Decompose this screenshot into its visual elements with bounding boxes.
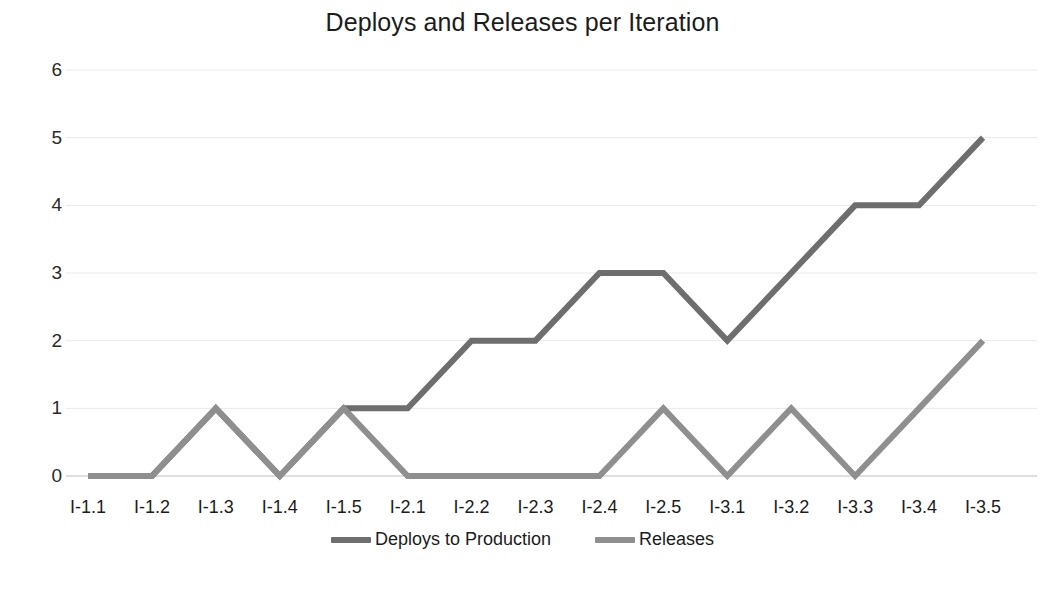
x-tick-label: I-2.3 <box>517 497 553 518</box>
x-tick-label: I-2.4 <box>581 497 617 518</box>
x-tick-label: I-1.5 <box>326 497 362 518</box>
y-tick-label: 6 <box>22 59 62 81</box>
legend-label: Releases <box>639 529 714 550</box>
series-line-deploys-to-production <box>88 138 983 476</box>
x-tick-label: I-1.4 <box>262 497 298 518</box>
legend-swatch-icon <box>595 537 635 543</box>
y-tick-label: 2 <box>22 330 62 352</box>
legend-label: Deploys to Production <box>375 529 551 550</box>
y-tick-label: 1 <box>22 397 62 419</box>
x-tick-label: I-2.5 <box>645 497 681 518</box>
x-tick-label: I-1.3 <box>198 497 234 518</box>
y-tick-label: 4 <box>22 194 62 216</box>
x-tick-label: I-3.1 <box>709 497 745 518</box>
y-tick-label: 5 <box>22 127 62 149</box>
x-tick-label: I-2.1 <box>390 497 426 518</box>
x-tick-label: I-3.2 <box>773 497 809 518</box>
legend-item[interactable]: Releases <box>595 529 714 550</box>
legend-item[interactable]: Deploys to Production <box>331 529 551 550</box>
y-tick-label: 3 <box>22 262 62 284</box>
x-tick-label: I-1.2 <box>134 497 170 518</box>
x-tick-label: I-3.3 <box>837 497 873 518</box>
chart-container: Deploys and Releases per Iteration 01234… <box>0 0 1045 592</box>
x-tick-label: I-3.5 <box>965 497 1001 518</box>
chart-legend: Deploys to ProductionReleases <box>0 529 1045 550</box>
x-tick-label: I-3.4 <box>901 497 937 518</box>
x-tick-label: I-2.2 <box>454 497 490 518</box>
y-tick-label: 0 <box>22 465 62 487</box>
legend-swatch-icon <box>331 537 371 543</box>
x-tick-label: I-1.1 <box>70 497 106 518</box>
